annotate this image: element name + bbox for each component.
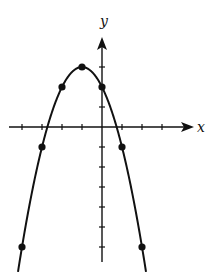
data-point [78, 63, 85, 70]
data-point [138, 243, 145, 250]
y-axis-label: y [99, 13, 109, 29]
axis-ticks [22, 67, 162, 247]
data-point [98, 83, 105, 90]
data-point [118, 143, 125, 150]
x-axis-label: x [197, 119, 205, 135]
data-points [18, 63, 145, 250]
data-point [18, 243, 25, 250]
parabola-curve [18, 67, 146, 272]
data-point [58, 83, 65, 90]
parabola-graph: y x [0, 0, 215, 273]
data-point [38, 143, 45, 150]
axes [9, 37, 194, 262]
